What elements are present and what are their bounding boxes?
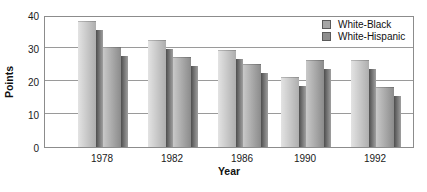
legend: White-BlackWhite-Hispanic [322,19,410,42]
bar-shadow-white-black-1978 [96,30,103,147]
bar-shadow-white-black-1986 [236,59,243,147]
bar-white-black-1992 [351,60,369,147]
legend-swatch-icon [322,20,331,29]
bar-group-1978 [78,17,128,147]
bar-white-black-1990 [281,77,299,147]
legend-label: White-Hispanic [338,31,410,42]
bar-white-hispanic-1978 [103,47,121,147]
bar-white-hispanic-1992 [376,87,394,147]
y-tick-30: 30 [0,44,39,55]
bar-shadow-white-hispanic-1982 [191,66,198,147]
x-axis-title: Year [44,165,414,177]
y-tick-0: 0 [0,143,39,154]
bar-white-hispanic-1986 [243,64,261,148]
x-tick-1982: 1982 [147,153,197,165]
bar-white-hispanic-1990 [306,60,324,147]
bar-white-black-1982 [148,40,166,147]
bar-group-1986 [218,17,268,147]
bar-shadow-white-hispanic-1990 [324,69,331,147]
legend-item-white-black: White-Black [322,19,410,30]
bar-white-black-1986 [218,50,236,147]
x-tick-1990: 1990 [280,153,330,165]
y-tick-20: 20 [0,77,39,88]
bar-group-1982 [148,17,198,147]
x-tick-1978: 1978 [77,153,127,165]
bar-shadow-white-black-1990 [299,86,306,147]
bar-shadow-white-black-1992 [369,69,376,147]
bar-shadow-white-hispanic-1986 [261,73,268,148]
x-tick-1992: 1992 [350,153,400,165]
plot-area: White-BlackWhite-Hispanic [44,16,414,148]
bar-white-black-1978 [78,21,96,147]
bar-shadow-white-hispanic-1978 [121,56,128,147]
legend-label: White-Black [338,19,410,30]
y-tick-40: 40 [0,11,39,22]
bar-white-hispanic-1982 [173,57,191,147]
bar-shadow-white-black-1982 [166,49,173,147]
chart-figure: Points 010203040 White-BlackWhite-Hispan… [0,0,427,192]
legend-item-white-hispanic: White-Hispanic [322,31,410,42]
bar-shadow-white-hispanic-1992 [394,96,401,147]
legend-swatch-icon [322,32,331,41]
y-tick-10: 10 [0,110,39,121]
x-tick-1986: 1986 [217,153,267,165]
